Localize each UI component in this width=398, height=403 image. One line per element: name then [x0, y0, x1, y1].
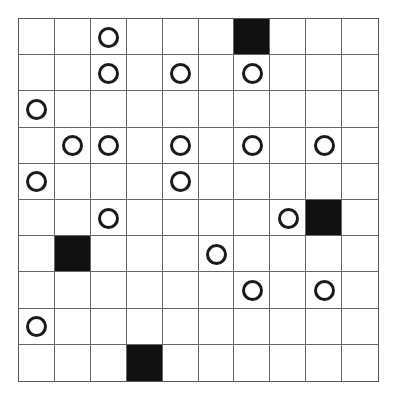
grid-cell[interactable] — [91, 19, 127, 55]
grid-cell[interactable] — [270, 309, 306, 345]
grid-cell[interactable] — [342, 128, 378, 164]
grid-cell[interactable] — [306, 345, 342, 381]
black-cell[interactable] — [127, 345, 163, 381]
black-cell[interactable] — [306, 200, 342, 236]
grid-cell[interactable] — [127, 19, 163, 55]
grid-cell[interactable] — [199, 309, 235, 345]
grid-cell[interactable] — [163, 345, 199, 381]
grid-cell[interactable] — [234, 55, 270, 91]
grid-cell[interactable] — [199, 200, 235, 236]
grid-cell[interactable] — [91, 91, 127, 127]
grid-cell[interactable] — [91, 345, 127, 381]
grid-cell[interactable] — [127, 91, 163, 127]
grid-cell[interactable] — [342, 19, 378, 55]
grid-cell[interactable] — [19, 272, 55, 308]
grid-cell[interactable] — [163, 164, 199, 200]
grid-cell[interactable] — [234, 91, 270, 127]
grid-cell[interactable] — [127, 236, 163, 272]
grid-cell[interactable] — [306, 91, 342, 127]
grid-cell[interactable] — [270, 55, 306, 91]
grid-cell[interactable] — [163, 200, 199, 236]
grid-cell[interactable] — [199, 345, 235, 381]
grid-cell[interactable] — [270, 19, 306, 55]
grid-cell[interactable] — [306, 236, 342, 272]
grid-cell[interactable] — [163, 19, 199, 55]
grid-cell[interactable] — [234, 272, 270, 308]
grid-cell[interactable] — [270, 345, 306, 381]
grid-cell[interactable] — [199, 91, 235, 127]
grid-cell[interactable] — [91, 55, 127, 91]
grid-cell[interactable] — [270, 236, 306, 272]
grid-cell[interactable] — [234, 200, 270, 236]
grid-cell[interactable] — [127, 128, 163, 164]
grid-cell[interactable] — [55, 272, 91, 308]
grid-cell[interactable] — [127, 200, 163, 236]
grid-cell[interactable] — [270, 91, 306, 127]
grid-cell[interactable] — [19, 128, 55, 164]
grid-cell[interactable] — [234, 309, 270, 345]
grid-cell[interactable] — [127, 55, 163, 91]
grid-cell[interactable] — [91, 309, 127, 345]
grid-cell[interactable] — [234, 164, 270, 200]
grid-cell[interactable] — [306, 128, 342, 164]
grid-cell[interactable] — [19, 91, 55, 127]
grid-cell[interactable] — [163, 309, 199, 345]
grid-cell[interactable] — [127, 272, 163, 308]
grid-cell[interactable] — [127, 164, 163, 200]
grid-cell[interactable] — [55, 345, 91, 381]
grid-cell[interactable] — [199, 236, 235, 272]
grid-cell[interactable] — [19, 236, 55, 272]
grid-cell[interactable] — [19, 55, 55, 91]
grid-cell[interactable] — [55, 309, 91, 345]
grid-cell[interactable] — [306, 309, 342, 345]
grid-cell[interactable] — [342, 345, 378, 381]
grid-cell[interactable] — [342, 55, 378, 91]
grid-cell[interactable] — [270, 200, 306, 236]
grid-cell[interactable] — [306, 164, 342, 200]
grid-cell[interactable] — [199, 164, 235, 200]
grid-cell[interactable] — [234, 236, 270, 272]
grid-cell[interactable] — [19, 345, 55, 381]
grid-cell[interactable] — [234, 128, 270, 164]
grid-cell[interactable] — [19, 164, 55, 200]
grid-cell[interactable] — [199, 272, 235, 308]
grid-cell[interactable] — [270, 272, 306, 308]
grid-cell[interactable] — [91, 164, 127, 200]
grid-cell[interactable] — [19, 200, 55, 236]
grid-cell[interactable] — [342, 309, 378, 345]
grid-cell[interactable] — [55, 91, 91, 127]
grid-cell[interactable] — [55, 19, 91, 55]
grid-cell[interactable] — [127, 309, 163, 345]
grid-cell[interactable] — [55, 164, 91, 200]
grid-cell[interactable] — [306, 55, 342, 91]
grid-cell[interactable] — [342, 200, 378, 236]
grid-cell[interactable] — [342, 164, 378, 200]
grid-cell[interactable] — [163, 272, 199, 308]
grid-cell[interactable] — [234, 345, 270, 381]
grid-cell[interactable] — [306, 19, 342, 55]
grid-cell[interactable] — [342, 236, 378, 272]
grid-cell[interactable] — [55, 200, 91, 236]
grid-cell[interactable] — [163, 55, 199, 91]
black-cell[interactable] — [234, 19, 270, 55]
grid-cell[interactable] — [270, 164, 306, 200]
grid-cell[interactable] — [199, 128, 235, 164]
grid-cell[interactable] — [91, 128, 127, 164]
grid-cell[interactable] — [55, 55, 91, 91]
grid-cell[interactable] — [199, 55, 235, 91]
grid-cell[interactable] — [55, 128, 91, 164]
grid-cell[interactable] — [163, 128, 199, 164]
grid-cell[interactable] — [270, 128, 306, 164]
black-cell[interactable] — [55, 236, 91, 272]
grid-cell[interactable] — [199, 19, 235, 55]
grid-cell[interactable] — [91, 272, 127, 308]
grid-cell[interactable] — [163, 236, 199, 272]
grid-cell[interactable] — [306, 272, 342, 308]
grid-cell[interactable] — [342, 91, 378, 127]
grid-cell[interactable] — [163, 91, 199, 127]
grid-cell[interactable] — [19, 309, 55, 345]
grid-cell[interactable] — [19, 19, 55, 55]
grid-cell[interactable] — [91, 236, 127, 272]
grid-cell[interactable] — [91, 200, 127, 236]
grid-cell[interactable] — [342, 272, 378, 308]
